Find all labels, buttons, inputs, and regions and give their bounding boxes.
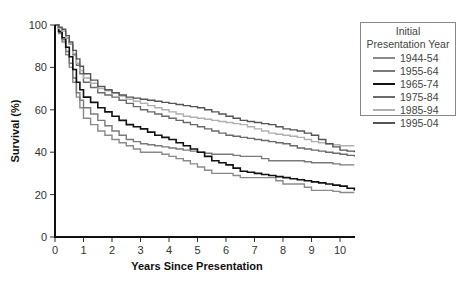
legend-label: 1944-54 — [400, 52, 439, 64]
legend-item: 1944-54 — [361, 51, 455, 64]
x-tick-label: 9 — [308, 244, 314, 256]
x-tick-label: 6 — [223, 244, 229, 256]
legend-label: 1995-04 — [400, 117, 439, 129]
y-tick-label: 40 — [35, 146, 47, 158]
y-tick-label: 20 — [35, 189, 47, 201]
x-axis-ticks: 012345678910 — [52, 237, 346, 256]
legend-item: 1995-04 — [361, 116, 455, 129]
x-tick-label: 0 — [52, 244, 58, 256]
y-tick-label: 60 — [35, 104, 47, 116]
legend-swatch — [373, 122, 395, 124]
x-tick-label: 10 — [334, 244, 346, 256]
survival-curve-1975-84 — [55, 25, 354, 156]
x-tick-label: 5 — [194, 244, 200, 256]
x-tick-label: 4 — [166, 244, 172, 256]
survival-curves — [55, 25, 354, 193]
legend-swatch — [373, 96, 395, 98]
legend-label: 1985-94 — [400, 104, 439, 116]
x-axis-title: Years Since Presentation — [131, 260, 263, 272]
legend-label: 1955-64 — [400, 65, 439, 77]
legend-item: 1975-84 — [361, 90, 455, 103]
y-axis-ticks: 020406080100 — [29, 19, 55, 243]
legend-swatch — [373, 83, 395, 85]
legend-label: 1975-84 — [400, 91, 439, 103]
legend-label: 1965-74 — [400, 78, 439, 90]
y-tick-label: 0 — [41, 231, 47, 243]
legend-item: 1955-64 — [361, 64, 455, 77]
x-tick-label: 3 — [137, 244, 143, 256]
x-tick-label: 7 — [251, 244, 257, 256]
legend-title: InitialPresentation Year — [361, 25, 455, 51]
legend-swatch — [373, 57, 395, 59]
x-tick-label: 2 — [109, 244, 115, 256]
y-axis-title: Survival (%) — [9, 99, 21, 162]
y-tick-label: 100 — [29, 19, 47, 31]
survival-curve-1955-64 — [55, 25, 354, 165]
chart-legend: InitialPresentation Year 1944-541955-641… — [360, 22, 456, 116]
legend-item: 1965-74 — [361, 77, 455, 90]
legend-swatch — [373, 109, 395, 111]
legend-swatch — [373, 70, 395, 72]
legend-item: 1985-94 — [361, 103, 455, 116]
y-tick-label: 80 — [35, 61, 47, 73]
x-tick-label: 1 — [80, 244, 86, 256]
x-tick-label: 8 — [280, 244, 286, 256]
